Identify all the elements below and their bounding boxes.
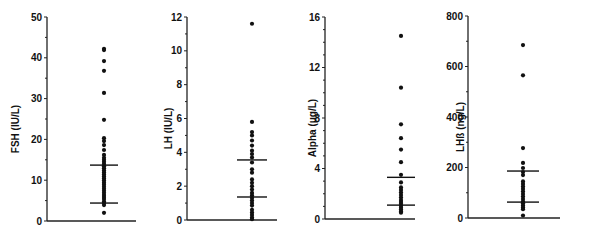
- data-point: [250, 155, 254, 159]
- data-point: [250, 171, 254, 175]
- tick-label: 0: [457, 213, 463, 224]
- data-point: [521, 73, 525, 77]
- y-axis-label: LHß (ng/L): [455, 102, 466, 152]
- panel-lh: 0200400600800LHß (ng/L): [446, 11, 560, 224]
- data-point: [399, 180, 403, 184]
- data-point: [250, 160, 254, 164]
- data-point: [102, 139, 106, 143]
- tick-label: 6: [176, 113, 182, 124]
- tick-label: 4: [176, 147, 182, 158]
- figure: 01020304050FSH (IU/L)024681012LH (IU/L)0…: [0, 0, 603, 233]
- y-axis-label: FSH (IU/L): [10, 105, 21, 153]
- panel-fsh: 01020304050FSH (IU/L): [10, 12, 136, 227]
- data-point: [102, 69, 106, 73]
- tick-label: 10: [171, 45, 183, 56]
- data-point: [102, 59, 106, 63]
- tick-label: 0: [176, 215, 182, 226]
- data-point: [399, 86, 403, 90]
- data-point: [102, 148, 106, 152]
- tick-label: 20: [31, 134, 43, 145]
- data-point: [102, 48, 106, 52]
- tick-label: 50: [31, 12, 43, 23]
- data-point: [250, 133, 254, 137]
- tick-label: 4: [314, 163, 320, 174]
- data-point: [102, 118, 106, 122]
- data-point: [399, 122, 403, 126]
- tick-label: 10: [31, 175, 43, 186]
- tick-label: 16: [309, 12, 321, 23]
- panel-alpha: 0481216Alpha (μg/L): [307, 12, 415, 225]
- tick-label: 0: [36, 216, 42, 227]
- data-point: [399, 147, 403, 151]
- y-axis-label: LH (IU/L): [163, 108, 174, 150]
- data-point: [399, 211, 403, 215]
- tick-label: 800: [446, 11, 463, 22]
- y-axis-label: Alpha (μg/L): [307, 99, 318, 157]
- data-point: [399, 136, 403, 140]
- data-point: [102, 143, 106, 147]
- tick-label: 600: [446, 61, 463, 72]
- data-point: [521, 43, 525, 47]
- data-point: [250, 22, 254, 26]
- tick-label: 8: [176, 79, 182, 90]
- data-point: [521, 161, 525, 165]
- data-point: [250, 120, 254, 124]
- tick-label: 12: [171, 12, 183, 23]
- tick-label: 0: [314, 214, 320, 225]
- tick-label: 30: [31, 93, 43, 104]
- data-point: [399, 160, 403, 164]
- data-point: [250, 138, 254, 142]
- data-point: [102, 91, 106, 95]
- data-point: [399, 34, 403, 38]
- data-point: [521, 166, 525, 170]
- tick-label: 40: [31, 52, 43, 63]
- panel-lh: 024681012LH (IU/L): [163, 12, 277, 226]
- data-point: [250, 217, 254, 221]
- data-point: [250, 204, 254, 208]
- data-point: [521, 173, 525, 177]
- data-point: [399, 173, 403, 177]
- data-point: [521, 213, 525, 217]
- tick-label: 12: [309, 62, 321, 73]
- data-point: [521, 146, 525, 150]
- tick-label: 200: [446, 162, 463, 173]
- tick-label: 2: [176, 181, 182, 192]
- data-point: [521, 207, 525, 211]
- data-point: [102, 211, 106, 215]
- data-point: [250, 143, 254, 147]
